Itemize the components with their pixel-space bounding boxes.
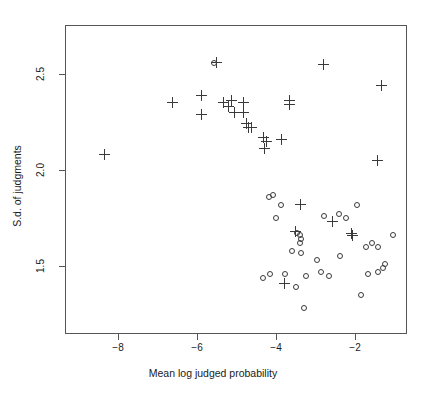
y-axis-label: S.d. of judgments bbox=[11, 106, 23, 266]
y-axis-tick-label: 2.0 bbox=[35, 163, 46, 177]
y-axis-tick-label: 2.5 bbox=[35, 67, 46, 81]
data-point-plus bbox=[226, 95, 237, 106]
data-point-plus bbox=[295, 199, 306, 210]
data-point-circle bbox=[369, 240, 375, 246]
x-axis-tick bbox=[118, 334, 119, 340]
data-point-plus bbox=[376, 80, 387, 91]
data-point-circle bbox=[303, 273, 309, 279]
x-axis-label: Mean log judged probability bbox=[0, 367, 426, 379]
x-axis-tick bbox=[197, 334, 198, 340]
data-point-plus bbox=[246, 122, 257, 133]
x-axis-tick-label: −2 bbox=[349, 342, 360, 353]
data-point-circle bbox=[326, 273, 332, 279]
data-point-plus bbox=[229, 107, 240, 118]
x-axis-tick-label: −8 bbox=[112, 342, 123, 353]
data-point-circle bbox=[336, 211, 342, 217]
y-axis-tick-label: 1.5 bbox=[35, 259, 46, 273]
data-point-circle bbox=[321, 213, 327, 219]
x-axis-tick bbox=[276, 334, 277, 340]
data-point-plus bbox=[196, 90, 207, 101]
data-point-circle bbox=[363, 244, 369, 250]
data-point-circle bbox=[260, 275, 266, 281]
y-axis-tick bbox=[59, 170, 65, 171]
data-point-plus bbox=[167, 97, 178, 108]
x-axis-tick-label: −6 bbox=[191, 342, 202, 353]
data-point-circle bbox=[282, 271, 288, 277]
data-point-plus bbox=[318, 59, 329, 70]
data-point-plus bbox=[276, 134, 287, 145]
data-point-plus bbox=[347, 230, 358, 241]
data-point-circle bbox=[318, 269, 324, 275]
data-point-circle bbox=[343, 215, 349, 221]
data-point-plus bbox=[327, 216, 338, 227]
data-point-plus bbox=[99, 149, 110, 160]
plot-panel bbox=[65, 25, 407, 334]
data-point-circle bbox=[298, 250, 304, 256]
x-axis-tick-label: −4 bbox=[270, 342, 281, 353]
data-point-circle bbox=[278, 202, 284, 208]
y-axis-tick bbox=[59, 74, 65, 75]
data-point-circle bbox=[211, 60, 217, 66]
data-point-circle bbox=[358, 292, 364, 298]
data-point-plus bbox=[196, 109, 207, 120]
data-point-plus bbox=[259, 143, 270, 154]
data-point-plus bbox=[372, 155, 383, 166]
x-axis-tick bbox=[355, 334, 356, 340]
data-point-circle bbox=[289, 248, 295, 254]
data-point-circle bbox=[365, 271, 371, 277]
data-point-circle bbox=[273, 215, 279, 221]
scatter-plot-figure: −8−6−4−21.52.02.5 Mean log judged probab… bbox=[0, 0, 426, 401]
data-point-circle bbox=[267, 271, 273, 277]
y-axis-tick bbox=[59, 266, 65, 267]
data-point-circle bbox=[375, 244, 381, 250]
data-point-plus bbox=[284, 99, 295, 110]
data-point-plus bbox=[279, 278, 290, 289]
